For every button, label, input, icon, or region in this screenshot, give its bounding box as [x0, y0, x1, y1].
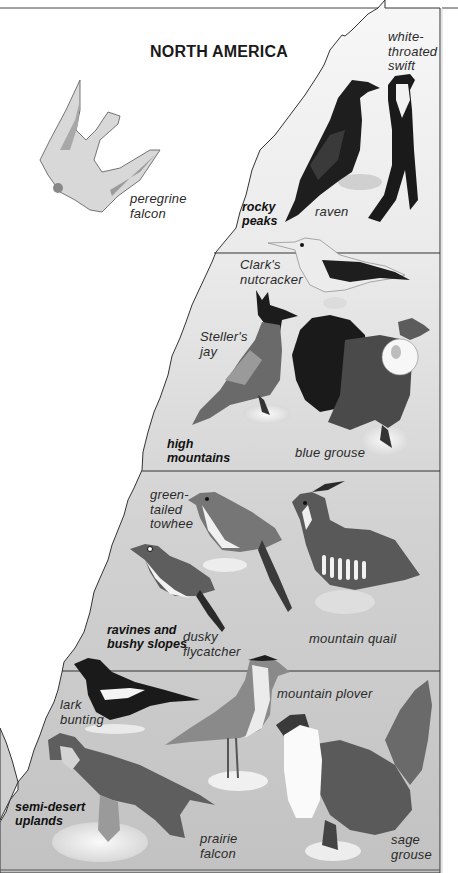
- zone-label-ravines-bushy-slopes: ravines and bushy slopes: [107, 623, 187, 651]
- zone-label-rocky-peaks: rocky peaks: [242, 200, 277, 228]
- bird-label-white-throated-swift: white- throated swift: [388, 30, 437, 74]
- bird-label-sage-grouse: sage grouse: [391, 833, 432, 862]
- zone-label-semi-desert-uplands: semi-desert uplands: [15, 800, 85, 828]
- jay-perch: [243, 404, 291, 424]
- towhee-perch: [203, 558, 247, 572]
- bird-label-mountain-quail: mountain quail: [309, 632, 396, 647]
- bird-label-lark-bunting: lark bunting: [60, 698, 104, 727]
- bird-label-green-tailed-towhee: green- tailed towhee: [150, 488, 193, 532]
- bird-label-dusky-flycatcher: dusky flycatcher: [183, 630, 241, 659]
- bird-label-mountain-plover: mountain plover: [277, 687, 373, 702]
- zone-label-high-mountains: high mountains: [167, 437, 230, 465]
- bird-label-raven: raven: [315, 205, 349, 220]
- bird-label-stellers-jay: Steller's jay: [200, 330, 248, 359]
- bird-label-prairie-falcon: prairie falcon: [200, 832, 238, 861]
- nutcracker-perch: [323, 297, 347, 309]
- quail-perch: [315, 590, 375, 614]
- bird-label-blue-grouse: blue grouse: [295, 446, 365, 461]
- map-title: NORTH AMERICA: [150, 43, 288, 61]
- bird-label-clarks-nutcracker: Clark's nutcracker: [240, 258, 303, 287]
- bird-label-peregrine-falcon: peregrine falcon: [130, 192, 187, 221]
